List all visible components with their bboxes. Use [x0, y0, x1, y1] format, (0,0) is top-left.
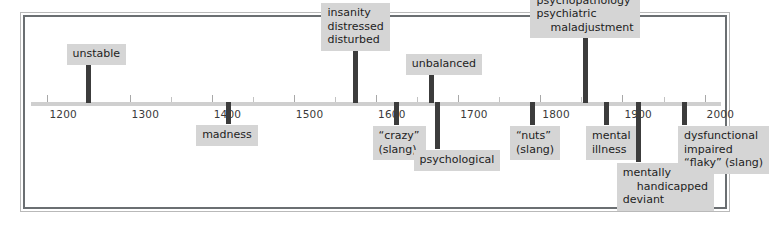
event-marker-stem-unstable [86, 65, 91, 103]
event-label-madness: madness [196, 125, 258, 146]
timeline-axis-line [31, 102, 721, 106]
axis-major-tick [622, 95, 623, 102]
event-label-line: maladjustment [536, 21, 633, 35]
axis-minor-tick [664, 97, 665, 102]
event-label-line: impaired [684, 143, 763, 157]
event-label-line: madness [202, 128, 252, 142]
axis-tick-label-1300: 1300 [132, 108, 160, 120]
event-label-line: deviant [623, 193, 708, 207]
event-label-line: “crazy” [379, 129, 420, 143]
axis-tick-label-1600: 1600 [378, 108, 406, 120]
axis-major-tick [294, 95, 295, 102]
event-label-abnormal-psychopathology-psychiatric-maladjustment: abnormalpsychopathologypsychiatricmaladj… [530, 0, 639, 38]
axis-major-tick [47, 95, 48, 102]
event-label-mental-illness: mentalillness [586, 126, 637, 160]
event-label-line: psychopathology [536, 0, 633, 7]
axis-major-tick [458, 95, 459, 102]
timeline-plot: 120013001400150016001700180019002000unst… [25, 17, 725, 207]
event-label-line: “flaky” (slang) [684, 156, 763, 170]
event-label-line: mental [592, 129, 631, 143]
event-marker-stem-mentally-handicapped-deviant [636, 102, 641, 162]
event-marker-stem-insanity-distressed-disturbed [353, 51, 358, 103]
event-marker-stem-nuts-slang [530, 102, 535, 125]
event-label-line: unstable [73, 47, 121, 61]
event-label-line: psychiatric [536, 7, 633, 21]
axis-minor-tick [335, 97, 336, 102]
event-label-nuts-slang: “nuts”(slang) [510, 126, 560, 160]
figure-frame-inner: 120013001400150016001700180019002000unst… [23, 15, 727, 209]
axis-minor-tick [499, 97, 500, 102]
event-label-line: illness [592, 143, 631, 157]
axis-tick-label-1800: 1800 [542, 108, 570, 120]
axis-major-tick [212, 95, 213, 102]
axis-major-tick [130, 95, 131, 102]
event-label-line: disturbed [327, 33, 383, 47]
axis-minor-tick [253, 97, 254, 102]
axis-major-tick [540, 95, 541, 102]
event-label-line: (slang) [516, 143, 554, 157]
event-marker-stem-mental-illness [604, 102, 609, 125]
axis-minor-tick [171, 97, 172, 102]
event-label-line: unbalanced [412, 57, 476, 71]
event-marker-stem-abnormal-psychopathology-psychiatric-maladjustment [583, 38, 588, 103]
axis-major-tick [705, 95, 706, 102]
event-marker-stem-crazy-slang [394, 102, 399, 125]
event-marker-stem-dysfunctional-impaired-flaky [682, 102, 687, 125]
event-label-line: insanity [327, 6, 383, 20]
event-label-line: handicapped [623, 180, 708, 194]
event-marker-stem-psychological [435, 102, 440, 149]
event-label-insanity-distressed-disturbed: insanitydistresseddisturbed [321, 3, 389, 51]
event-label-line: “nuts” [516, 129, 554, 143]
event-label-unstable: unstable [67, 44, 127, 65]
event-label-line: dysfunctional [684, 129, 763, 143]
axis-tick-label-1700: 1700 [460, 108, 488, 120]
axis-tick-label-1500: 1500 [296, 108, 324, 120]
event-label-unbalanced: unbalanced [406, 54, 482, 75]
event-label-line: distressed [327, 20, 383, 34]
axis-minor-tick [417, 97, 418, 102]
event-marker-stem-unbalanced [429, 75, 434, 103]
axis-tick-label-2000: 2000 [707, 108, 735, 120]
axis-tick-label-1200: 1200 [49, 108, 77, 120]
event-marker-stem-madness [226, 102, 231, 124]
event-label-line: psychological [420, 153, 495, 167]
event-label-psychological: psychological [414, 150, 501, 171]
figure-frame-outer: 120013001400150016001700180019002000unst… [20, 12, 730, 212]
event-label-dysfunctional-impaired-flaky: dysfunctionalimpaired“flaky” (slang) [678, 126, 769, 174]
axis-major-tick [376, 95, 377, 102]
